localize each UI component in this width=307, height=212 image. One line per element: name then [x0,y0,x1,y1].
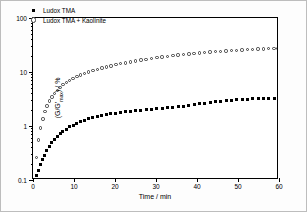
data-point-series-1 [276,47,277,50]
data-point-series-0 [87,117,90,120]
data-point-series-1 [198,51,201,54]
y-tick-minor [31,39,34,40]
x-tick-label: 20 [111,183,118,190]
x-tick-label: 60 [275,183,282,190]
data-point-series-0 [262,97,265,100]
data-point-series-0 [72,124,75,127]
data-point-series-0 [246,98,249,101]
data-point-series-1 [109,64,112,67]
data-point-series-0 [39,163,42,166]
plot-frame: 0.1110100 0102030405060 (G/G'max) / % [32,17,278,179]
y-tick-minor [31,100,34,101]
chart-legend: Ludox TMALudox TMA + Kaolinite [29,7,106,24]
plot-area [33,18,277,178]
data-point-series-0 [177,105,180,108]
data-point-series-1 [35,156,38,159]
data-point-series-0 [145,108,148,111]
data-point-series-1 [267,47,270,50]
figure-container: 0.1110100 0102030405060 (G/G'max) / % Ti… [0,0,307,212]
data-point-series-0 [114,112,117,115]
data-point-series-1 [96,68,99,71]
data-point-series-1 [192,52,195,55]
data-point-series-0 [155,107,158,110]
y-tick-label: 1 [23,123,27,130]
data-point-series-1 [262,47,265,50]
y-tick-major [29,126,33,127]
data-point-series-1 [48,99,51,102]
data-point-series-0 [230,99,233,102]
y-tick-minor [31,128,34,129]
data-point-series-0 [209,101,212,104]
data-point-series-1 [144,58,147,61]
data-point-series-0 [273,97,276,100]
y-axis-title-prefix: (G/G' [54,102,61,119]
data-point-series-0 [109,112,112,115]
data-point-series-0 [37,169,40,172]
data-point-series-1 [230,49,233,52]
data-point-series-0 [187,104,190,107]
x-tick-major [115,178,116,182]
y-tick-minor [31,142,34,143]
data-point-series-1 [240,48,243,51]
x-tick-label: 30 [152,183,159,190]
y-tick-minor [31,147,34,148]
data-point-series-1 [50,95,53,98]
data-point-series-0 [83,119,86,122]
data-point-series-1 [256,47,259,50]
data-point-series-0 [193,103,196,106]
data-point-series-0 [48,145,51,148]
x-tick-major [279,178,280,182]
data-point-series-1 [203,51,206,54]
y-tick-minor [31,134,34,135]
data-point-series-1 [134,59,137,62]
data-point-series-1 [39,126,42,129]
data-point-series-0 [45,149,48,152]
data-point-series-1 [214,50,217,53]
y-tick-minor [31,56,34,57]
data-point-series-1 [37,138,40,141]
y-tick-minor [31,93,34,94]
y-axis-title-suffix: ) / % [54,78,61,92]
open-circle-icon [29,17,38,23]
data-point-series-1 [155,56,158,59]
data-point-series-0 [267,97,270,100]
data-point-series-1 [224,49,227,52]
data-point-series-0 [182,105,185,108]
data-point-series-1 [166,55,169,58]
data-point-series-0 [225,99,228,102]
data-point-series-1 [43,110,46,113]
y-tick-label: 10 [20,69,27,76]
data-point-series-1 [119,62,122,65]
x-axis-title: Time / min [32,193,278,200]
y-tick-label: 100 [16,15,27,22]
x-tick-label: 10 [70,183,77,190]
data-point-series-0 [219,100,222,103]
data-point-series-0 [150,108,153,111]
data-point-series-1 [171,54,174,57]
data-point-series-0 [241,98,244,101]
filled-square-icon [29,9,38,12]
x-tick-major [33,178,34,182]
data-point-series-1 [235,49,238,52]
data-point-series-1 [129,60,132,63]
data-point-series-0 [35,174,38,177]
data-point-series-1 [160,55,163,58]
data-point-series-1 [124,61,127,64]
data-point-series-0 [75,122,78,125]
data-point-series-1 [219,50,222,53]
data-point-series-0 [79,120,82,123]
data-point-series-0 [68,125,71,128]
y-tick-minor [31,164,34,165]
x-tick-label: 0 [31,183,35,190]
data-point-series-0 [161,107,164,110]
data-point-series-0 [235,98,238,101]
data-point-series-0 [203,102,206,105]
y-tick-minor [31,138,34,139]
data-point-series-1 [251,48,254,51]
data-point-series-1 [150,57,153,60]
data-point-series-1 [83,72,86,75]
y-axis-title: (G/G'max) / % [54,38,63,158]
x-tick-major [197,178,198,182]
y-tick-minor [31,77,34,78]
data-point-series-0 [91,116,94,119]
